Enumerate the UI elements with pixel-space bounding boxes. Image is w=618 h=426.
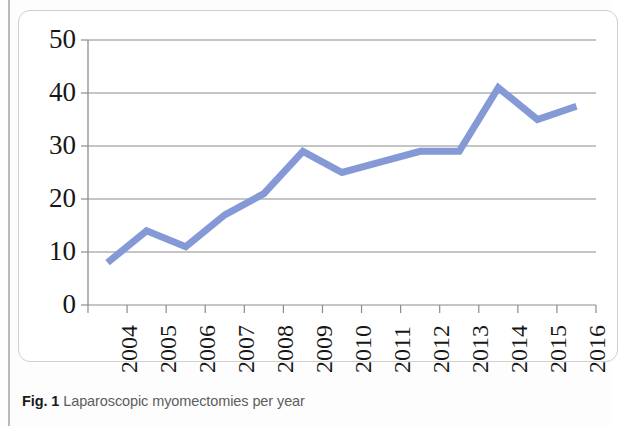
x-tick-label: 2005 [156,325,180,373]
x-axis-tick-marks [88,305,596,313]
figure-caption-text: Laparoscopic myomectomies per year [63,393,305,409]
y-tick-label: 20 [18,185,76,212]
figure-caption: Fig. 1 Laparoscopic myomectomies per yea… [22,392,602,410]
x-tick-label: 2004 [117,325,141,373]
y-tick-label: 30 [18,132,76,159]
x-tick-label: 2009 [312,325,336,373]
x-tick-label: 2007 [234,325,258,373]
y-tick-label: 0 [18,291,76,318]
figure-caption-label: Fig. 1 [22,393,59,409]
x-tick-label: 2015 [546,325,570,373]
x-tick-label: 2010 [351,325,375,373]
y-tick-label: 50 [18,26,76,53]
data-series-line [108,88,577,263]
x-tick-label: 2008 [273,325,297,373]
y-tick-label: 10 [18,238,76,265]
x-tick-label: 2012 [429,325,453,373]
x-tick-label: 2011 [390,326,414,373]
x-tick-label: 2013 [468,325,492,373]
x-tick-label: 2014 [507,325,531,373]
y-axis-tick-marks [81,40,88,305]
x-tick-label: 2016 [585,325,609,373]
x-tick-label: 2006 [195,325,219,373]
series-polyline [108,88,577,263]
y-tick-label: 40 [18,79,76,106]
